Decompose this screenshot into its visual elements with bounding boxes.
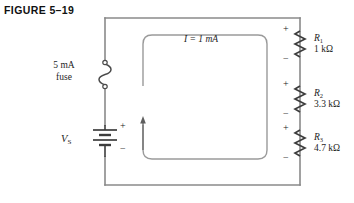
fuse-label: 5 mA fuse [44,60,84,83]
current-loop-path [143,35,267,159]
fuse-terminal-top [103,60,107,64]
resistor-r1-name: R1 [314,33,323,44]
resistor-r3-value: 4.7 kΩ [314,143,340,153]
r2-subscript: 2 [320,92,323,99]
battery-symbol [93,125,117,157]
source-subscript: S [67,138,71,146]
source-label: VS [61,133,71,146]
source-plus-sign: + [120,121,126,131]
r2-minus-sign: − [283,109,289,119]
fuse-symbol [99,60,111,88]
current-direction-arrow [140,116,146,150]
r2-plus-sign: + [283,79,289,89]
figure-container: FIGURE 5–19 [0,0,354,203]
current-annotation: I = 1 mA [184,34,218,44]
arrow-head [140,116,146,124]
circuit-schematic [0,0,354,203]
r3-minus-sign: − [283,153,289,163]
current-loop-rounded-rect [143,35,267,159]
r3-subscript: 3 [320,136,323,143]
fuse-terminal-bottom [103,84,107,88]
fuse-rating: 5 mA [53,60,74,70]
r1-subscript: 1 [320,37,323,44]
resistor-r2-value: 3.3 kΩ [314,99,340,109]
r1-minus-sign: − [283,54,289,64]
resistor-r2-name: R2 [314,88,323,99]
source-minus-sign: − [120,144,126,154]
resistor-r3-name: R3 [314,132,323,143]
fuse-word: fuse [56,72,72,82]
resistor-r1-value: 1 kΩ [314,44,333,54]
r3-plus-sign: + [283,123,289,133]
fuse-s-curve [99,64,111,85]
r1-plus-sign: + [283,24,289,34]
